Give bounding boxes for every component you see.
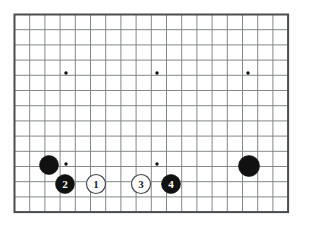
star-point-upper-left [64, 71, 67, 74]
go-board-grid[interactable] [0, 0, 312, 231]
white-stone-3[interactable] [132, 175, 151, 194]
star-point-lower-left [64, 162, 67, 165]
star-point-lower-center [155, 162, 158, 165]
black-stone-corner-left[interactable] [40, 156, 59, 175]
black-stone-2[interactable] [56, 175, 75, 194]
black-stone-4[interactable] [162, 175, 181, 194]
star-point-upper-right [246, 71, 249, 74]
go-board-diagram: 2134 [0, 0, 312, 231]
board-background [0, 0, 312, 231]
black-stone-corner-right[interactable] [239, 156, 260, 177]
white-stone-1[interactable] [87, 175, 106, 194]
star-point-upper-center [155, 71, 158, 74]
